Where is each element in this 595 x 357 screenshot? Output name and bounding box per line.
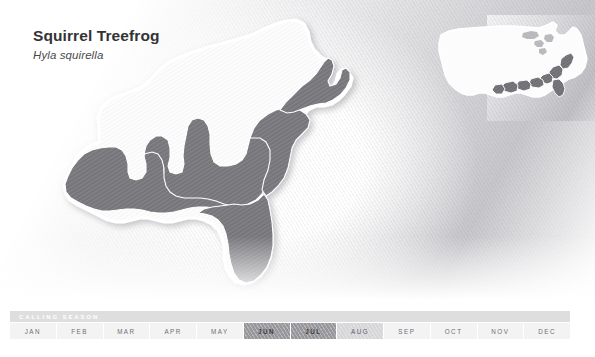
calling-season-panel: CALLING SEASON JANFEBMARAPRMAYJUNJULAUGS… <box>10 311 570 339</box>
month-label: OCT <box>445 328 463 335</box>
month-scale: JANFEBMARAPRMAYJUNJULAUGSEPOCTNOVDEC <box>10 323 570 339</box>
month-cell-jan[interactable]: JAN <box>10 323 57 339</box>
month-cell-nov[interactable]: NOV <box>478 323 525 339</box>
month-cell-feb[interactable]: FEB <box>57 323 104 339</box>
month-label: JUN <box>258 328 275 335</box>
month-label: NOV <box>491 328 509 335</box>
month-label: DEC <box>538 328 556 335</box>
species-title-block: Squirrel Treefrog Hyla squirella <box>33 27 160 61</box>
month-label: SEP <box>398 328 415 335</box>
month-cell-jul[interactable]: JUL <box>291 323 338 339</box>
month-cell-aug[interactable]: AUG <box>337 323 384 339</box>
month-cell-oct[interactable]: OCT <box>431 323 478 339</box>
month-label: MAR <box>117 328 136 335</box>
species-range-card: Squirrel Treefrog Hyla squirella CALLING… <box>0 0 595 357</box>
inset-us-outline <box>435 13 595 121</box>
bottom-fade <box>0 236 595 310</box>
month-cell-may[interactable]: MAY <box>197 323 244 339</box>
month-label: APR <box>164 328 181 335</box>
calling-season-label: CALLING SEASON <box>10 314 99 320</box>
page-title: Squirrel Treefrog <box>33 27 160 45</box>
month-label: MAY <box>211 328 229 335</box>
month-label: JUL <box>305 328 321 335</box>
month-cell-sep[interactable]: SEP <box>384 323 431 339</box>
month-label: FEB <box>71 328 88 335</box>
month-cell-mar[interactable]: MAR <box>104 323 151 339</box>
month-cell-jun[interactable]: JUN <box>244 323 291 339</box>
month-label: AUG <box>351 328 369 335</box>
month-cell-apr[interactable]: APR <box>150 323 197 339</box>
month-cell-dec[interactable]: DEC <box>524 323 570 339</box>
calling-season-header: CALLING SEASON <box>10 311 570 322</box>
month-label: JAN <box>25 328 41 335</box>
scientific-name: Hyla squirella <box>33 49 160 61</box>
